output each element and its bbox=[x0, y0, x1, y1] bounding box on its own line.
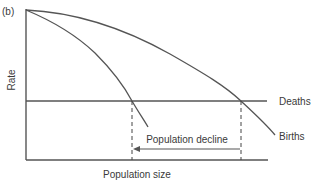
births-curve-lower bbox=[26, 10, 148, 127]
arrow-head-icon bbox=[133, 146, 140, 152]
chart-canvas: (b) Rate Population decline Deaths Birth… bbox=[0, 0, 317, 187]
x-axis-label: Population size bbox=[103, 169, 171, 180]
panel-label: (b) bbox=[2, 6, 14, 17]
decline-label: Population decline bbox=[146, 134, 228, 145]
deaths-label: Deaths bbox=[279, 96, 311, 107]
births-label: Births bbox=[279, 131, 305, 142]
y-axis-label: Rate bbox=[6, 69, 17, 91]
population-rate-chart: (b) Rate Population decline Deaths Birth… bbox=[0, 0, 317, 187]
